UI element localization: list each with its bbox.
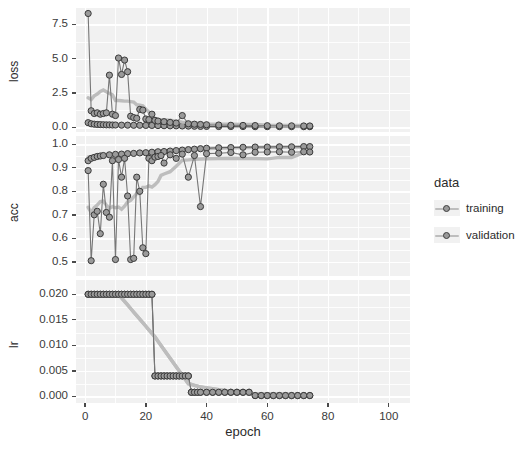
data-point xyxy=(88,258,94,264)
data-point xyxy=(121,57,127,63)
data-point xyxy=(276,392,282,398)
data-point xyxy=(288,123,294,129)
data-point xyxy=(140,107,146,113)
legend-item-training[interactable]: training xyxy=(434,200,504,216)
data-point xyxy=(115,55,121,61)
data-point xyxy=(161,119,167,125)
data-point xyxy=(228,389,234,395)
data-point xyxy=(210,389,216,395)
x-tick-label: 20 xyxy=(126,410,166,422)
data-point xyxy=(106,72,112,78)
data-point xyxy=(301,392,307,398)
series-training xyxy=(85,291,313,398)
data-point xyxy=(100,152,106,158)
series-trend xyxy=(88,294,310,395)
series-layer-acc xyxy=(76,136,410,276)
data-point xyxy=(85,167,91,173)
y-tick-label: 1.0 xyxy=(18,137,68,149)
legend-key-training-icon xyxy=(434,200,460,216)
data-point xyxy=(216,150,222,156)
data-point xyxy=(203,151,209,157)
x-axis-title: epoch xyxy=(76,424,410,439)
data-point xyxy=(131,150,137,156)
series-line xyxy=(88,294,310,395)
data-point xyxy=(155,118,161,124)
data-point xyxy=(112,122,118,128)
data-point xyxy=(301,123,307,129)
data-point xyxy=(240,389,246,395)
data-point xyxy=(270,392,276,398)
data-point xyxy=(203,389,209,395)
data-point xyxy=(288,392,294,398)
data-point xyxy=(295,392,301,398)
facet-label-loss: loss xyxy=(6,14,22,129)
data-point xyxy=(258,392,264,398)
data-point xyxy=(125,122,131,128)
y-tick-mark xyxy=(72,396,76,397)
data-point xyxy=(173,155,179,161)
data-point xyxy=(161,160,167,166)
x-tick-label: 40 xyxy=(187,410,227,422)
data-point xyxy=(185,147,191,153)
y-tick-label: 0.5 xyxy=(18,255,68,267)
x-tick-label: 100 xyxy=(369,410,409,422)
series-layer-lr xyxy=(76,280,410,403)
data-point xyxy=(137,150,143,156)
y-tick-label: 0.020 xyxy=(18,287,68,299)
legend-key-validation-icon xyxy=(434,227,460,243)
data-point xyxy=(252,122,258,128)
y-tick-mark xyxy=(72,370,76,371)
data-point xyxy=(264,392,270,398)
y-tick-label: 0.6 xyxy=(18,231,68,243)
data-point xyxy=(149,111,155,117)
data-point xyxy=(185,373,191,379)
x-tick-label: 80 xyxy=(308,410,348,422)
legend-label-training: training xyxy=(466,202,504,214)
data-point xyxy=(149,291,155,297)
data-point xyxy=(216,389,222,395)
series-validation xyxy=(85,10,313,129)
data-point xyxy=(118,71,124,77)
data-point xyxy=(112,112,118,118)
data-point xyxy=(134,174,140,180)
data-point xyxy=(118,122,124,128)
data-point xyxy=(197,389,203,395)
y-tick-mark xyxy=(72,144,76,145)
data-point xyxy=(185,121,191,127)
data-point xyxy=(228,122,234,128)
chart-root: loss acc lr epoch data training validati… xyxy=(0,0,525,463)
legend-item-validation[interactable]: validation xyxy=(434,227,515,243)
data-point xyxy=(94,208,100,214)
data-point xyxy=(125,193,131,199)
data-point xyxy=(197,146,203,152)
data-point xyxy=(203,122,209,128)
data-point xyxy=(197,121,203,127)
y-tick-mark xyxy=(72,261,76,262)
panel-lr xyxy=(76,280,410,403)
data-point xyxy=(307,123,313,129)
y-tick-mark xyxy=(72,345,76,346)
data-point xyxy=(222,389,228,395)
data-point xyxy=(234,389,240,395)
data-point xyxy=(143,251,149,257)
data-point xyxy=(246,389,252,395)
data-point xyxy=(307,392,313,398)
y-tick-mark xyxy=(72,191,76,192)
data-point xyxy=(103,110,109,116)
data-point xyxy=(131,122,137,128)
data-point xyxy=(307,149,313,155)
data-point xyxy=(301,149,307,155)
series-line xyxy=(88,13,310,125)
data-point xyxy=(282,392,288,398)
y-tick-label: 0.7 xyxy=(18,208,68,220)
data-point xyxy=(137,122,143,128)
x-tick-mark xyxy=(84,403,85,407)
data-point xyxy=(252,392,258,398)
series-validation xyxy=(85,149,313,264)
x-tick-mark xyxy=(388,403,389,407)
data-point xyxy=(228,149,234,155)
x-tick-mark xyxy=(327,403,328,407)
data-point xyxy=(264,149,270,155)
data-point xyxy=(115,156,121,162)
series-trend xyxy=(88,90,310,126)
